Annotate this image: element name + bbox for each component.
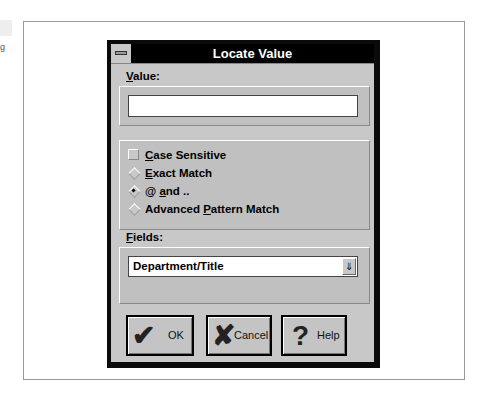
system-menu-button[interactable] xyxy=(111,44,132,63)
dropdown-arrow-icon[interactable]: ⇓ xyxy=(342,258,356,275)
x-mark-icon: ✘ xyxy=(212,320,235,352)
value-label: Value: xyxy=(126,70,160,82)
value-panel xyxy=(119,86,370,126)
fields-panel: Department/Title ⇓ xyxy=(119,247,370,304)
locate-value-dialog: Locate Value Value: Case Sensitive Exact… xyxy=(107,40,380,368)
background-tab xyxy=(0,20,12,36)
wildcard-match-radio[interactable]: @ and .. xyxy=(128,183,189,199)
ok-button[interactable]: ✔ OK xyxy=(126,315,194,356)
case-sensitive-label: Case Sensitive xyxy=(145,149,226,161)
title-bar[interactable]: Locate Value xyxy=(111,44,374,64)
background-partial-text: g xyxy=(0,42,5,52)
wildcard-match-label: @ and .. xyxy=(145,185,189,197)
fields-selected-value: Department/Title xyxy=(133,257,224,276)
checkmark-icon: ✔ xyxy=(132,320,155,352)
advanced-pattern-match-radio[interactable]: Advanced Pattern Match xyxy=(128,201,279,217)
advanced-pattern-match-label: Advanced Pattern Match xyxy=(145,203,279,215)
dialog-title: Locate Value xyxy=(131,44,374,63)
fields-label: Fields: xyxy=(126,231,163,243)
question-mark-icon: ? xyxy=(292,320,309,352)
checkbox-icon xyxy=(128,149,139,160)
cancel-button[interactable]: ✘ Cancel xyxy=(206,315,272,356)
dialog-body: Locate Value Value: Case Sensitive Exact… xyxy=(111,44,374,362)
radio-icon xyxy=(128,203,139,214)
help-label: Help xyxy=(317,329,340,341)
value-input[interactable] xyxy=(128,95,358,117)
exact-match-label: Exact Match xyxy=(145,167,212,179)
case-sensitive-checkbox[interactable]: Case Sensitive xyxy=(128,147,226,163)
ok-label: OK xyxy=(168,329,184,341)
fields-dropdown[interactable]: Department/Title ⇓ xyxy=(128,256,358,277)
exact-match-radio[interactable]: Exact Match xyxy=(128,165,212,181)
system-menu-icon xyxy=(115,51,127,55)
help-button[interactable]: ? Help xyxy=(281,315,347,356)
cancel-label: Cancel xyxy=(234,329,268,341)
match-options-panel: Case Sensitive Exact Match @ and .. Adva… xyxy=(119,140,370,230)
radio-selected-icon xyxy=(128,185,139,196)
radio-icon xyxy=(128,167,139,178)
